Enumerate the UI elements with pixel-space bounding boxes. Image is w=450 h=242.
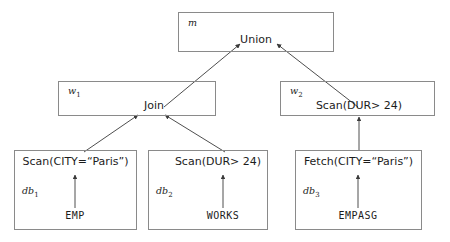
relation-empasg[interactable]: EMPASG: [316, 210, 400, 221]
edge-db2scan-to-join: [165, 115, 225, 152]
operator-db1-scan[interactable]: Scan(CITY=“Paris”): [16, 155, 135, 168]
query-plan-diagram: m Union w1 Join w2 Scan(DUR> 24) Scan(CI…: [0, 0, 450, 242]
operator-w2-scan[interactable]: Scan(DUR> 24): [307, 99, 411, 112]
operator-db3-fetch[interactable]: Fetch(CITY=“Paris”): [297, 155, 420, 168]
edge-db1scan-to-join: [84, 115, 138, 152]
site-label-m: m: [188, 17, 197, 31]
site-label-db2: db2: [156, 185, 173, 199]
operator-union[interactable]: Union: [216, 33, 296, 46]
operator-join[interactable]: Join: [124, 99, 184, 112]
relation-works[interactable]: WORKS: [184, 210, 262, 221]
site-label-db3: db3: [303, 185, 320, 199]
operator-db2-scan[interactable]: Scan(DUR> 24): [166, 155, 270, 168]
site-label-w1: w1: [68, 85, 81, 99]
site-box-m[interactable]: [178, 12, 334, 52]
site-label-db1: db1: [22, 185, 39, 199]
site-label-w2: w2: [290, 85, 303, 99]
relation-emp[interactable]: EMP: [40, 210, 110, 221]
